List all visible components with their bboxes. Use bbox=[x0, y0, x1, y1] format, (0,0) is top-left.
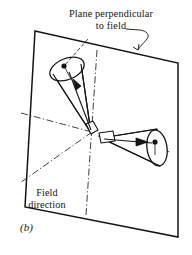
lower-cone-neck bbox=[99, 131, 115, 143]
plane-label-line2: to field bbox=[96, 20, 126, 31]
figure-part-label: (b) bbox=[20, 221, 33, 233]
figure-b-container: Plane perpendicular to field bbox=[0, 0, 192, 255]
plane-label-line1: Plane perpendicular bbox=[69, 8, 153, 19]
physics-figure-svg: Plane perpendicular to field bbox=[0, 0, 192, 255]
plane-leader-curve bbox=[138, 30, 148, 50]
plane-leader-arrowhead bbox=[133, 44, 139, 50]
field-label-line2: direction bbox=[28, 199, 66, 210]
plane-leader-stub bbox=[126, 29, 140, 30]
field-label-line1: Field bbox=[36, 187, 58, 198]
